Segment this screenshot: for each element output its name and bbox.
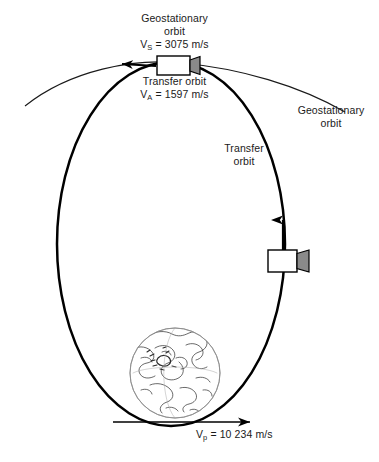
transfer-orbit-mid-label: Transfer orbit [213, 142, 275, 168]
satellite-on-transfer-orbit [268, 250, 309, 272]
diagram-canvas [0, 0, 379, 462]
velocity-value-a: = 1597 m/s [152, 88, 208, 100]
transfer-orbit-mid-line1: Transfer [213, 142, 275, 155]
satellite-at-apogee [157, 56, 200, 75]
velocity-value-s: = 3075 m/s [152, 38, 208, 50]
transfer-apogee-label: Transfer orbit VA = 1597 m/s [122, 75, 227, 104]
geostationary-apogee-label: Geostationary orbit VS = 3075 m/s [122, 12, 227, 54]
geostationary-orbit-right-label: Geostationary orbit [290, 104, 372, 130]
geostationary-orbit-right-line2: orbit [290, 117, 372, 130]
earth-globe [130, 328, 220, 418]
geostationary-velocity-value: VS = 3075 m/s [122, 38, 227, 54]
perigee-velocity-label: Vp = 10 234 m/s [196, 428, 336, 444]
geostationary-orbit-right-line1: Geostationary [290, 104, 372, 117]
geostationary-orbit-label-line2: orbit [122, 25, 227, 38]
velocity-value-p: = 10 234 m/s [207, 428, 272, 440]
orbit-diagram-figure: Geostationary orbit VS = 3075 m/s Transf… [0, 0, 379, 462]
transfer-apogee-velocity-value: VA = 1597 m/s [122, 88, 227, 104]
geostationary-orbit-label-line1: Geostationary [122, 12, 227, 25]
transfer-orbit-label-top: Transfer orbit [122, 75, 227, 88]
transfer-orbit-mid-line2: orbit [213, 155, 275, 168]
